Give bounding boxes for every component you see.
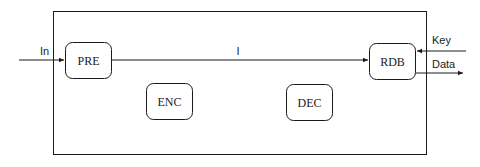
block-diagram: In PRE I ENC DEC RDB Key Data xyxy=(0,0,480,167)
rdb-block-label: RDB xyxy=(380,55,405,69)
system-boundary xyxy=(54,12,427,155)
rdb-block: RDB xyxy=(370,44,416,80)
enc-block-label: ENC xyxy=(158,95,182,109)
dec-block-label: DEC xyxy=(298,96,322,110)
enc-block: ENC xyxy=(147,84,193,120)
input-label: In xyxy=(40,45,49,57)
dec-block: DEC xyxy=(287,85,333,121)
pre-block: PRE xyxy=(66,43,112,79)
key-label: Key xyxy=(432,34,451,46)
data-label: Data xyxy=(432,58,456,70)
pre-block-label: PRE xyxy=(77,54,99,68)
internal-signal-label: I xyxy=(236,45,239,57)
